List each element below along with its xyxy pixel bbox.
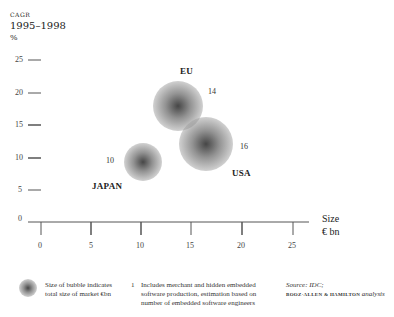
source-note: Source: IDC; BOOZ·ALLEN & HAMILTON analy… <box>286 281 385 299</box>
label-usa: USA <box>232 168 251 178</box>
footnote-line3: number of embedded software engineers <box>141 299 256 308</box>
y-tick-5: 5 <box>18 185 22 194</box>
footnote-line2: software production, estimation based on <box>141 290 256 299</box>
y-tick-25: 25 <box>15 55 23 64</box>
y-tick-20: 20 <box>15 88 23 97</box>
size-eu: 14 <box>208 87 216 96</box>
legend-note-line2: total size of market €bn <box>45 290 112 299</box>
x-tick-5: 5 <box>89 241 93 250</box>
x-tick-25: 25 <box>288 241 296 250</box>
y-tick-15: 15 <box>15 120 23 129</box>
x-ticks <box>41 222 293 235</box>
x-tick-15: 15 <box>186 241 194 250</box>
x-axis-title-size: Size <box>322 213 339 224</box>
bubble-japan <box>124 143 162 181</box>
bubble-usa <box>179 117 233 171</box>
y-tick-0: 0 <box>18 214 22 223</box>
legend-note: Size of bubble indicates total size of m… <box>45 281 112 299</box>
source-analysis: analysis <box>362 290 385 298</box>
footnote-line1: Includes merchant and hidden embedded <box>141 281 256 290</box>
x-tick-10: 10 <box>136 241 144 250</box>
label-japan: JAPAN <box>92 181 122 191</box>
source-line1: Source: IDC; <box>286 281 385 290</box>
source-firm: BOOZ·ALLEN & HAMILTON <box>286 292 360 297</box>
x-axis-title-unit: € bn <box>322 226 340 237</box>
size-usa: 16 <box>240 142 248 151</box>
legend-note-line1: Size of bubble indicates <box>45 281 112 290</box>
label-eu: EU <box>180 66 193 76</box>
size-japan: 10 <box>106 156 114 165</box>
footnote-marker: 1 <box>131 281 135 290</box>
x-tick-20: 20 <box>237 241 245 250</box>
x-tick-0: 0 <box>38 241 42 250</box>
legend-bubble-icon <box>19 279 37 297</box>
footnote-text: Includes merchant and hidden embedded so… <box>141 281 256 308</box>
y-tick-10: 10 <box>15 153 23 162</box>
y-ticks <box>28 60 41 190</box>
